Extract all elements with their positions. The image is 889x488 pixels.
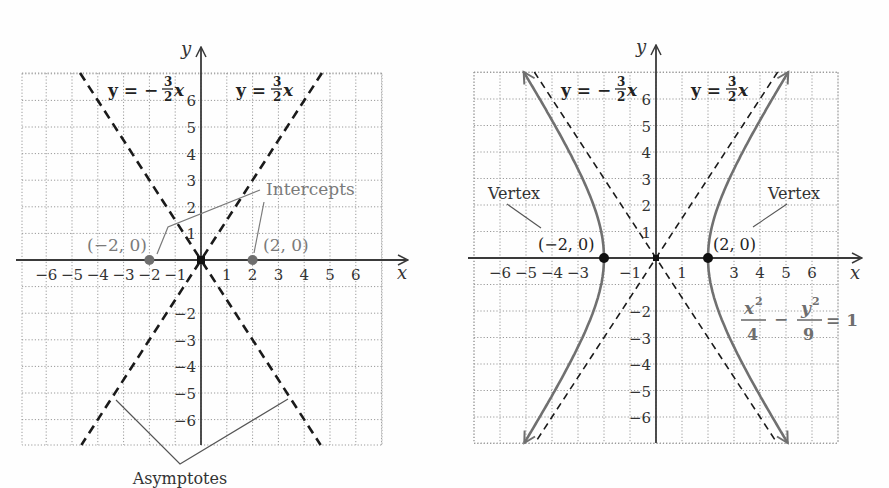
x-tick-label: 3 <box>729 264 739 282</box>
svg-text:9: 9 <box>803 325 814 344</box>
svg-text:y = −: y = − <box>107 80 158 100</box>
vertex-leader-left <box>507 204 541 228</box>
x-tick-label: −1 <box>164 266 186 284</box>
right-y-axis-label: y <box>635 36 647 57</box>
y-tick-label: 1 <box>641 224 651 242</box>
vertex-callout-left: Vertex <box>487 184 540 203</box>
y-tick-label: 2 <box>186 199 196 217</box>
y-tick-label: 2 <box>641 197 651 215</box>
svg-text:y =: y = <box>690 80 721 100</box>
left-axes <box>16 47 408 445</box>
intercept-left-label: (−2, 0) <box>87 235 147 255</box>
y-tick-label: 5 <box>641 118 651 136</box>
x-tick-label: −3 <box>113 266 135 284</box>
x-tick-label: 1 <box>677 264 687 282</box>
svg-text:x: x <box>173 80 185 100</box>
svg-text:2: 2 <box>812 295 820 308</box>
right-graph: −6−5−4−3−113456654321−2−3−4−5−6 y = − 3 … <box>468 36 862 444</box>
x-tick-label: −6 <box>35 266 57 284</box>
figure-canvas: −6−5−4−3−2−1123456654321−2−3−4−5−6 y = −… <box>0 0 889 488</box>
intercept-point-left <box>144 255 154 265</box>
svg-text:2: 2 <box>164 90 172 104</box>
left-x-axis-label: x <box>397 262 407 283</box>
y-tick-label: 4 <box>641 144 651 162</box>
y-tick-label: 6 <box>641 91 651 109</box>
y-tick-label: −6 <box>174 412 196 430</box>
intercept-right-label: (2, 0) <box>263 235 309 255</box>
vertex-point-right <box>703 253 713 263</box>
origin-marker <box>653 255 659 261</box>
y-tick-label: −4 <box>174 358 196 376</box>
svg-text:2: 2 <box>755 295 763 308</box>
right-tick-labels: −6−5−4−3−113456654321−2−3−4−5−6 <box>489 91 817 427</box>
y-tick-label: 4 <box>186 146 196 164</box>
x-tick-label: 6 <box>807 264 817 282</box>
svg-text:2: 2 <box>273 90 281 104</box>
x-tick-label: −4 <box>541 264 563 282</box>
left-asymptote-pos-label: y = 3 2 x <box>235 75 294 104</box>
y-tick-label: −3 <box>629 330 651 348</box>
x-tick-label: −5 <box>515 264 537 282</box>
svg-text:x: x <box>737 80 749 100</box>
svg-text:= 1: = 1 <box>826 310 858 330</box>
y-tick-label: 3 <box>641 171 651 189</box>
y-tick-label: −5 <box>629 383 651 401</box>
asymptotes-leader <box>116 399 288 464</box>
left-graph: −6−5−4−3−2−1123456654321−2−3−4−5−6 y = −… <box>16 38 408 488</box>
y-tick-label: −3 <box>174 332 196 350</box>
origin-marker <box>197 256 205 264</box>
svg-text:x: x <box>282 80 294 100</box>
right-asymptote-pos-label: y = 3 2 x <box>690 75 749 104</box>
x-tick-label: −6 <box>489 264 511 282</box>
x-tick-label: 4 <box>299 266 309 284</box>
svg-text:3: 3 <box>164 75 172 89</box>
vertex-callout-right: Vertex <box>767 184 820 203</box>
intercepts-callout: Intercepts <box>266 179 355 199</box>
x-tick-label: −1 <box>619 264 641 282</box>
right-x-axis-label: x <box>850 262 860 283</box>
svg-text:x: x <box>743 298 755 318</box>
x-tick-label: −2 <box>138 266 160 284</box>
y-tick-label: −6 <box>629 409 651 427</box>
x-tick-label: 1 <box>222 266 232 284</box>
vertex-leader-right <box>753 204 787 227</box>
svg-text:3: 3 <box>728 75 736 89</box>
vertex-left-label: (−2, 0) <box>538 235 594 254</box>
left-annotations <box>116 190 288 464</box>
left-y-axis-label: y <box>180 38 192 59</box>
svg-text:2: 2 <box>728 90 736 104</box>
svg-text:4: 4 <box>747 325 758 344</box>
y-tick-label: −5 <box>174 385 196 403</box>
vertex-right-label: (2, 0) <box>713 235 756 254</box>
svg-text:x: x <box>626 80 638 100</box>
left-asymptote-neg-label: y = − 3 2 x <box>107 75 185 104</box>
left-branch-lower <box>524 258 604 443</box>
y-tick-label: −2 <box>174 305 196 323</box>
svg-text:3: 3 <box>617 75 625 89</box>
y-tick-label: 6 <box>186 92 196 110</box>
y-tick-label: −2 <box>629 303 651 321</box>
x-tick-label: −3 <box>567 264 589 282</box>
svg-text:y =: y = <box>235 80 266 100</box>
vertex-point-left <box>599 253 609 263</box>
svg-text:3: 3 <box>273 75 281 89</box>
intercept-point-right <box>248 255 258 265</box>
x-tick-label: 4 <box>755 264 765 282</box>
x-tick-label: 3 <box>274 266 284 284</box>
right-asymptote-neg-label: y = − 3 2 x <box>560 75 638 104</box>
x-tick-label: 6 <box>351 266 361 284</box>
x-tick-label: 2 <box>248 266 258 284</box>
asymptotes-callout: Asymptotes <box>132 469 227 488</box>
y-tick-label: 5 <box>186 119 196 137</box>
y-tick-label: 3 <box>186 172 196 190</box>
x-tick-label: 5 <box>781 264 791 282</box>
x-tick-label: 5 <box>325 266 335 284</box>
x-tick-label: −5 <box>61 266 83 284</box>
intercepts-leader-left <box>157 190 260 254</box>
hyperbola-equation: x 2 4 − y 2 9 = 1 <box>741 295 858 344</box>
svg-text:2: 2 <box>617 90 625 104</box>
x-tick-label: −4 <box>87 266 109 284</box>
svg-text:y = −: y = − <box>560 80 611 100</box>
y-tick-label: −4 <box>629 356 651 374</box>
svg-text:−: − <box>774 309 788 329</box>
